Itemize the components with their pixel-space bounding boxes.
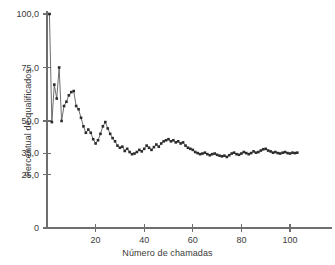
data-point	[68, 94, 71, 97]
data-point	[77, 108, 80, 111]
data-point	[184, 144, 187, 147]
data-point	[119, 146, 122, 149]
data-point	[85, 131, 88, 134]
data-point	[252, 150, 255, 153]
data-point	[260, 149, 263, 152]
data-point	[136, 151, 139, 154]
data-point	[116, 144, 119, 147]
data-point	[177, 140, 180, 143]
data-point	[53, 83, 56, 86]
data-point	[160, 142, 163, 145]
x-axis-ticks: 20406080100	[91, 224, 298, 245]
data-point	[199, 153, 202, 156]
data-point	[162, 140, 165, 143]
x-tick-label: 60	[188, 235, 198, 245]
data-point	[272, 151, 275, 154]
data-point	[192, 149, 195, 152]
data-point	[82, 125, 85, 128]
data-point	[104, 121, 107, 124]
data-point	[189, 148, 192, 151]
data-point	[187, 146, 190, 149]
x-tick-label: 100	[282, 235, 297, 245]
x-axis-title: Número de chamadas	[0, 248, 335, 258]
data-point	[216, 154, 219, 157]
x-tick-label: 40	[139, 235, 149, 245]
data-point	[289, 152, 292, 155]
data-point	[238, 154, 241, 157]
data-point	[247, 153, 250, 156]
data-point	[226, 156, 229, 159]
data-point	[87, 128, 90, 131]
data-point	[143, 148, 146, 151]
data-point	[211, 153, 214, 156]
data-point	[174, 141, 177, 144]
data-point	[63, 105, 66, 108]
data-point	[145, 144, 148, 147]
data-point	[153, 146, 156, 149]
data-point	[70, 91, 73, 94]
data-point	[277, 152, 280, 155]
data-point	[89, 131, 92, 134]
data-point	[182, 141, 185, 144]
data-point	[126, 148, 129, 151]
data-point	[240, 152, 243, 155]
data-point	[264, 148, 267, 151]
data-point	[286, 152, 289, 155]
x-tick-label: 80	[236, 235, 246, 245]
data-point	[140, 150, 143, 153]
data-point	[218, 154, 221, 157]
data-point	[155, 143, 158, 146]
data-point	[206, 153, 209, 156]
data-point	[80, 116, 83, 119]
data-point	[262, 148, 265, 151]
data-point	[294, 152, 297, 155]
data-point	[138, 149, 141, 152]
data-point	[204, 151, 207, 154]
data-point	[106, 127, 109, 130]
data-point	[148, 146, 151, 149]
data-point	[102, 125, 105, 128]
data-point	[150, 149, 153, 152]
y-tick-label: 0	[34, 223, 39, 233]
data-point	[269, 150, 272, 153]
data-point	[221, 155, 224, 158]
data-point	[170, 140, 173, 143]
data-point	[75, 105, 78, 108]
data-point	[281, 151, 284, 154]
data-point	[172, 139, 175, 142]
data-point	[165, 139, 168, 142]
data-point	[114, 140, 117, 143]
series-markers	[48, 13, 298, 159]
data-point	[48, 13, 51, 16]
data-point	[194, 151, 197, 154]
data-point	[243, 151, 246, 154]
y-tick-label: 100,0	[16, 9, 39, 19]
data-point	[58, 66, 61, 69]
data-point	[274, 151, 277, 154]
data-point	[284, 151, 287, 154]
data-point	[235, 153, 238, 156]
y-axis-title: Percentual de qualificados	[23, 43, 33, 203]
data-point	[223, 154, 226, 157]
data-point	[255, 151, 258, 154]
data-point	[230, 152, 233, 155]
data-point	[167, 138, 170, 141]
data-point	[51, 121, 54, 124]
data-point	[233, 151, 236, 154]
data-point	[128, 151, 131, 154]
data-point	[201, 152, 204, 155]
chart-plot-area: 025,035,050,075,0100,0 20406080100	[0, 0, 335, 265]
data-point	[213, 152, 216, 155]
data-point	[250, 152, 253, 155]
axes	[47, 11, 332, 228]
chart-figure: 025,035,050,075,0100,0 20406080100 Perce…	[0, 0, 335, 265]
data-point	[245, 152, 248, 155]
data-point	[209, 154, 212, 157]
data-point	[131, 153, 134, 156]
data-point	[121, 145, 124, 148]
data-point	[92, 138, 95, 141]
data-point	[123, 150, 126, 153]
data-point	[228, 154, 231, 157]
data-point	[99, 133, 102, 136]
data-series	[48, 13, 298, 159]
